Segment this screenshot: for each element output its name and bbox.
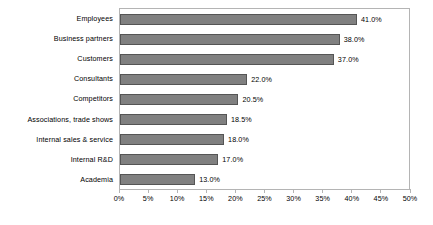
x-tick-label: 25% (257, 194, 272, 203)
x-tick-label: 15% (199, 194, 214, 203)
bar-value-label: 18.5% (231, 115, 252, 124)
category-label: Internal sales & service (36, 135, 116, 144)
plot-area: 41.0%38.0%37.0%22.0%20.5%18.5%18.0%17.0%… (119, 8, 410, 190)
bar-row: 38.0% (120, 34, 409, 45)
category-label: Associations, trade shows (27, 115, 116, 124)
x-tick-label: 10% (170, 194, 185, 203)
category-label: Employees (77, 14, 116, 23)
bar-row: 37.0% (120, 54, 409, 65)
x-tick-label: 30% (286, 194, 301, 203)
x-tick-label: 20% (228, 194, 243, 203)
bar-value-label: 38.0% (344, 35, 365, 44)
x-tick-mark (410, 189, 411, 193)
bar (120, 74, 247, 85)
bar (120, 94, 238, 105)
x-tick-label: 40% (344, 194, 359, 203)
category-label: Customers (77, 54, 116, 63)
x-axis: 0%5%10%15%20%25%30%35%40%45%50% (119, 189, 410, 219)
category-label: Internal R&D (71, 155, 116, 164)
bar-row: 22.0% (120, 74, 409, 85)
x-tick-mark (119, 189, 120, 193)
bars-layer: 41.0%38.0%37.0%22.0%20.5%18.5%18.0%17.0%… (120, 9, 409, 189)
x-tick-mark (293, 189, 294, 193)
bar (120, 54, 334, 65)
bar-row: 41.0% (120, 14, 409, 25)
bar (120, 134, 224, 145)
category-label: Business partners (54, 34, 116, 43)
category-label: Competitors (73, 94, 116, 103)
x-tick-label: 0% (114, 194, 125, 203)
bar-chart: EmployeesBusiness partnersCustomersConsu… (0, 0, 433, 225)
bar (120, 34, 340, 45)
bar-row: 17.0% (120, 154, 409, 165)
x-axis-ticks (119, 189, 410, 193)
bar-value-label: 37.0% (338, 55, 359, 64)
bar (120, 154, 218, 165)
x-tick-label: 35% (315, 194, 330, 203)
x-tick-mark (235, 189, 236, 193)
bar-row: 13.0% (120, 174, 409, 185)
x-tick-mark (322, 189, 323, 193)
bar-value-label: 20.5% (242, 95, 263, 104)
category-label: Consultants (74, 74, 116, 83)
bar-row: 18.5% (120, 114, 409, 125)
x-tick-mark (177, 189, 178, 193)
bar-value-label: 22.0% (251, 75, 272, 84)
bar-value-label: 17.0% (222, 155, 243, 164)
x-tick-label: 45% (374, 194, 389, 203)
category-axis: EmployeesBusiness partnersCustomersConsu… (0, 8, 116, 190)
bar (120, 14, 357, 25)
x-tick-mark (206, 189, 207, 193)
bar (120, 174, 195, 185)
category-label: Academia (80, 175, 116, 184)
bar-row: 18.0% (120, 134, 409, 145)
x-tick-label: 5% (143, 194, 154, 203)
x-axis-tick-labels: 0%5%10%15%20%25%30%35%40%45%50% (119, 194, 410, 206)
bar (120, 114, 227, 125)
x-tick-mark (351, 189, 352, 193)
bar-value-label: 41.0% (361, 15, 382, 24)
x-tick-mark (264, 189, 265, 193)
bar-value-label: 13.0% (199, 175, 220, 184)
x-tick-label: 50% (403, 194, 418, 203)
bar-row: 20.5% (120, 94, 409, 105)
bar-value-label: 18.0% (228, 135, 249, 144)
x-tick-mark (148, 189, 149, 193)
x-tick-mark (380, 189, 381, 193)
